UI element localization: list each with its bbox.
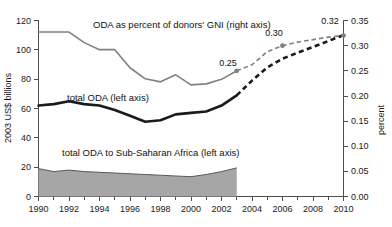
y-tick-label-100: 100 bbox=[16, 45, 31, 55]
y-tick-label-0: 0 bbox=[26, 192, 31, 202]
x-tick-label-1992: 1992 bbox=[59, 204, 79, 214]
x-tick-label-2000: 2000 bbox=[181, 204, 201, 214]
y2-tick-label-035: 0.35 bbox=[351, 16, 369, 26]
y2-tick-label-025: 0.25 bbox=[351, 66, 369, 76]
x-tick-label-2004: 2004 bbox=[242, 204, 262, 214]
point-label-2006-030: 0.30 bbox=[265, 28, 283, 38]
y2-tick-label-010: 0.10 bbox=[351, 141, 369, 151]
y-tick-label-20: 20 bbox=[21, 162, 31, 172]
data-point-marker bbox=[234, 68, 239, 73]
x-tick-label-2010: 2010 bbox=[333, 204, 353, 214]
chart-container: 120 100 80 60 40 20 0 2003 US$ billions … bbox=[0, 0, 392, 227]
x-tick-label-1990: 1990 bbox=[28, 204, 48, 214]
y-tick-label-120: 120 bbox=[16, 16, 31, 26]
series-label-ssa: total ODA to Sub-Saharan Africa (left ax… bbox=[62, 147, 239, 158]
right-axis-title: percent bbox=[376, 104, 386, 135]
series-label-total-oda: total ODA (left axis) bbox=[67, 92, 149, 103]
y-tick-label-80: 80 bbox=[21, 74, 31, 84]
x-tick-label-2008: 2008 bbox=[303, 204, 323, 214]
y2-tick-label-000: 0.00 bbox=[351, 192, 369, 202]
data-point-marker bbox=[280, 43, 285, 48]
x-tick-label-1996: 1996 bbox=[120, 204, 140, 214]
y-tick-label-60: 60 bbox=[21, 104, 31, 114]
point-label-2010-032: 0.32 bbox=[321, 16, 339, 26]
point-label-2003-025: 0.25 bbox=[219, 58, 237, 68]
x-tick-label-1994: 1994 bbox=[89, 204, 109, 214]
x-tick-label-1998: 1998 bbox=[150, 204, 170, 214]
x-tick-label-2006: 2006 bbox=[272, 204, 292, 214]
y2-tick-label-015: 0.15 bbox=[351, 116, 369, 126]
y2-tick-label-020: 0.20 bbox=[351, 91, 369, 101]
y2-tick-label-005: 0.05 bbox=[351, 166, 369, 176]
x-tick-label-2002: 2002 bbox=[211, 204, 231, 214]
left-axis-title: 2003 US$ billions bbox=[3, 72, 13, 143]
y-tick-label-40: 40 bbox=[21, 133, 31, 143]
series-label-gni: ODA as percent of donors' GNI (right axi… bbox=[93, 19, 271, 30]
oda-trends-chart: 120 100 80 60 40 20 0 2003 US$ billions … bbox=[0, 0, 392, 227]
y2-tick-label-030: 0.30 bbox=[351, 41, 369, 51]
data-point-marker bbox=[341, 33, 346, 38]
